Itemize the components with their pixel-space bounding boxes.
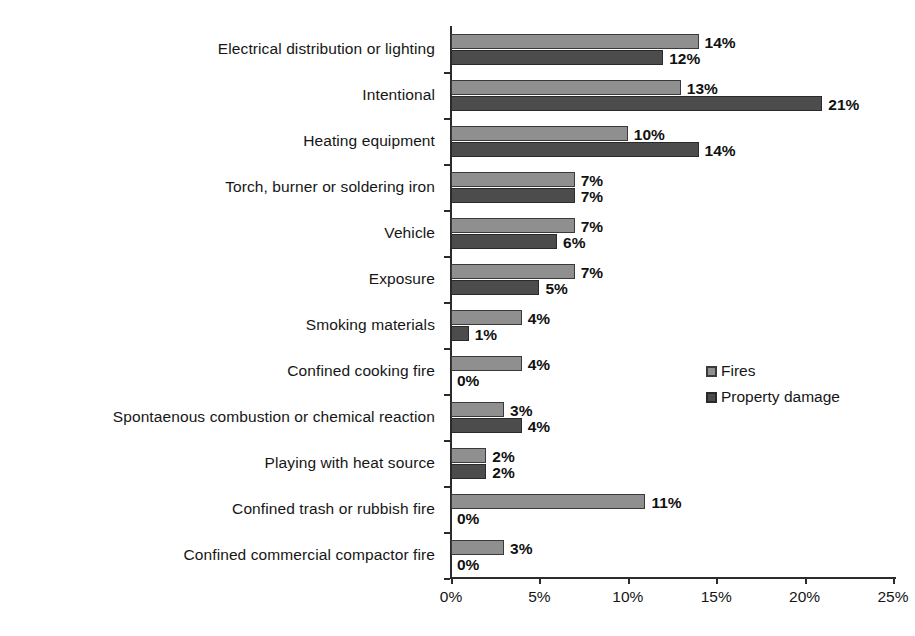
bar-value-label: 6% (563, 235, 585, 250)
y-axis-tick (444, 164, 450, 166)
x-axis-tick (628, 577, 630, 584)
bar-value-label: 0% (457, 557, 479, 572)
category-label: Smoking materials (0, 317, 443, 333)
x-axis-tick (893, 577, 895, 584)
legend-item[interactable]: Property damage (706, 384, 896, 410)
bar-value-label: 0% (457, 511, 479, 526)
y-axis-tick (444, 486, 450, 488)
bar-value-label: 14% (705, 35, 736, 50)
chart-legend: FiresProperty damage (706, 358, 896, 410)
category-label: Playing with heat source (0, 455, 443, 471)
property-damage-swatch-icon (706, 392, 717, 403)
bar-value-label: 7% (581, 189, 603, 204)
x-axis-tick-label: 10% (612, 588, 643, 606)
bar-fires (451, 310, 522, 325)
bar-property-damage (451, 142, 699, 157)
x-axis-tick-label: 25% (877, 588, 908, 606)
bar-property-damage (451, 326, 469, 341)
bar-value-label: 4% (528, 311, 550, 326)
bar-value-label: 7% (581, 265, 603, 280)
y-axis-tick (444, 210, 450, 212)
category-label: Spontaenous combustion or chemical react… (0, 409, 443, 425)
bar-fires (451, 218, 575, 233)
category-label: Exposure (0, 271, 443, 287)
bar-property-damage (451, 50, 663, 65)
bar-property-damage (451, 464, 486, 479)
bar-property-damage (451, 418, 522, 433)
y-axis-tick (444, 302, 450, 304)
bar-value-label: 11% (651, 495, 681, 510)
bar-value-label: 2% (492, 465, 514, 480)
category-label: Vehicle (0, 225, 443, 241)
y-axis-tick (444, 532, 450, 534)
x-axis-tick (451, 577, 453, 584)
plot-area: 14%12%13%21%10%14%7%7%7%6%7%5%4%1%4%0%3%… (450, 26, 895, 578)
bar-value-label: 4% (528, 357, 550, 372)
legend-label: Property damage (721, 389, 840, 405)
bar-value-label: 1% (475, 327, 497, 342)
bar-fires (451, 402, 504, 417)
x-axis-tick-label: 0% (440, 588, 462, 606)
bar-fires (451, 126, 628, 141)
bar-property-damage (451, 188, 575, 203)
bar-fires (451, 264, 575, 279)
y-axis-tick (444, 72, 450, 74)
category-label: Confined trash or rubbish fire (0, 501, 443, 517)
x-axis-tick (805, 577, 807, 584)
bar-value-label: 7% (581, 173, 603, 188)
category-label: Electrical distribution or lighting (0, 41, 443, 57)
category-label: Confined commercial compactor fire (0, 547, 443, 563)
fires-swatch-icon (706, 366, 717, 377)
bar-value-label: 13% (687, 81, 718, 96)
bar-fires (451, 356, 522, 371)
bar-value-label: 12% (669, 51, 700, 66)
y-axis-tick (444, 256, 450, 258)
y-axis-tick (444, 578, 450, 580)
bar-value-label: 10% (634, 127, 665, 142)
bar-property-damage (451, 234, 557, 249)
bar-fires (451, 80, 681, 95)
bar-value-label: 4% (528, 419, 550, 434)
bar-value-label: 0% (457, 373, 479, 388)
x-axis-tick (539, 577, 541, 584)
x-axis-tick-label: 20% (789, 588, 820, 606)
bar-value-label: 5% (545, 281, 567, 296)
y-axis-tick (444, 348, 450, 350)
bar-value-label: 3% (510, 541, 532, 556)
category-label: Torch, burner or soldering iron (0, 179, 443, 195)
x-axis-tick-label: 5% (528, 588, 550, 606)
y-axis-tick (444, 394, 450, 396)
bar-value-label: 7% (581, 219, 603, 234)
category-label: Confined cooking fire (0, 363, 443, 379)
category-axis-labels: Electrical distribution or lightingInten… (0, 0, 443, 560)
bar-property-damage (451, 96, 822, 111)
category-label: Heating equipment (0, 133, 443, 149)
bar-value-label: 14% (705, 143, 736, 158)
x-axis-tick-label: 15% (701, 588, 732, 606)
x-axis-line (450, 577, 896, 579)
bar-fires (451, 448, 486, 463)
y-axis-tick (444, 440, 450, 442)
bar-property-damage (451, 280, 539, 295)
bar-value-label: 3% (510, 403, 532, 418)
bar-value-label: 2% (492, 449, 514, 464)
legend-item[interactable]: Fires (706, 358, 896, 384)
bar-fires (451, 494, 645, 509)
category-label: Intentional (0, 87, 443, 103)
x-axis-tick (716, 577, 718, 584)
bar-value-label: 21% (828, 97, 859, 112)
bar-fires (451, 540, 504, 555)
bar-chart: Electrical distribution or lightingInten… (0, 0, 915, 636)
y-axis-tick (444, 118, 450, 120)
legend-label: Fires (721, 363, 755, 379)
bar-fires (451, 34, 699, 49)
bar-fires (451, 172, 575, 187)
